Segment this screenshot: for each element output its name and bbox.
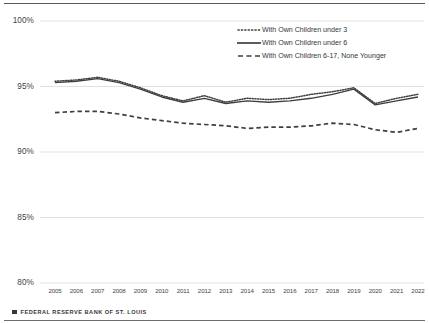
y-axis-tick-label: 100% [2, 16, 34, 25]
series-lines [55, 77, 418, 132]
x-axis-tick-label: 2008 [108, 287, 130, 294]
legend-label: With Own Children under 6 [262, 39, 347, 47]
chart-figure: 80%85%90%95%100% 20052006200720082009201… [0, 0, 429, 323]
series-line-1 [55, 79, 418, 105]
chart-legend: With Own Children under 3With Own Childr… [236, 24, 426, 63]
x-axis-tick-label: 2020 [364, 287, 386, 294]
x-axis-tick-label: 2015 [258, 287, 280, 294]
footer-text: FEDERAL RESERVE BANK OF ST. LOUIS [21, 309, 147, 315]
x-axis-tick-label: 2018 [322, 287, 344, 294]
x-axis-tick-label: 2012 [193, 287, 215, 294]
legend-item: With Own Children 6-17, None Younger [236, 50, 426, 62]
legend-key-dashed-icon [236, 51, 262, 61]
x-axis-tick-label: 2009 [129, 287, 151, 294]
legend-item: With Own Children under 6 [236, 37, 426, 49]
bottom-divider [4, 320, 425, 321]
x-axis-tick-label: 2014 [236, 287, 258, 294]
legend-item: With Own Children under 3 [236, 24, 426, 36]
series-line-2 [55, 111, 418, 132]
x-axis-tick-label: 2013 [215, 287, 237, 294]
x-axis-tick-label: 2017 [300, 287, 322, 294]
legend-key-solid-icon [236, 38, 262, 48]
footer: FEDERAL RESERVE BANK OF ST. LOUIS [12, 309, 147, 315]
x-axis-tick-label: 2010 [151, 287, 173, 294]
y-axis-tick-label: 90% [2, 147, 34, 156]
x-axis-tick-label: 2022 [407, 287, 429, 294]
x-axis-tick-label: 2019 [343, 287, 365, 294]
legend-label: With Own Children 6-17, None Younger [262, 52, 386, 60]
x-axis-tick-label: 2011 [172, 287, 194, 294]
y-axis-tick-label: 80% [2, 278, 34, 287]
x-axis-tick-label: 2006 [65, 287, 87, 294]
x-axis-tick-label: 2016 [279, 287, 301, 294]
x-axis-tick-label: 2007 [87, 287, 109, 294]
y-axis-tick-label: 95% [2, 82, 34, 91]
legend-key-dotted-icon [236, 25, 262, 35]
x-axis-tick-label: 2005 [44, 287, 66, 294]
y-axis-tick-label: 85% [2, 213, 34, 222]
legend-label: With Own Children under 3 [262, 26, 347, 34]
x-axis-tick-label: 2021 [386, 287, 408, 294]
square-logo-icon [12, 310, 17, 315]
